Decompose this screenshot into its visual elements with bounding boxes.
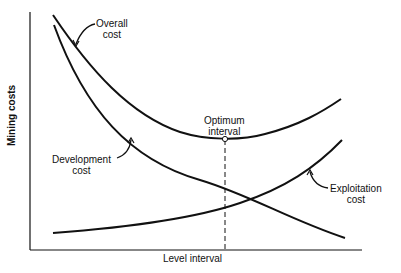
optimum-label-line1: Optimum bbox=[204, 115, 245, 126]
exploitation-label-line1: Exploitation bbox=[330, 183, 382, 194]
optimum-label-line2: interval bbox=[204, 126, 245, 137]
development-label-line1: Development bbox=[52, 154, 111, 165]
exploitation-label-line2: cost bbox=[330, 194, 382, 205]
development-label-line2: cost bbox=[52, 165, 111, 176]
development-cost-label: Development cost bbox=[52, 154, 111, 176]
optimum-point-marker bbox=[222, 136, 227, 141]
optimum-interval-label: Optimum interval bbox=[204, 115, 245, 137]
x-axis-label: Level interval bbox=[163, 253, 222, 264]
development-cost-curve bbox=[54, 25, 345, 238]
cost-diagram bbox=[0, 0, 401, 273]
overall-cost-label-line1: Overall bbox=[96, 18, 128, 29]
overall-cost-label: Overall cost bbox=[96, 18, 128, 40]
y-axis-label: Mining costs bbox=[6, 85, 17, 146]
exploitation-cost-label: Exploitation cost bbox=[330, 183, 382, 205]
overall-cost-label-line2: cost bbox=[96, 29, 128, 40]
